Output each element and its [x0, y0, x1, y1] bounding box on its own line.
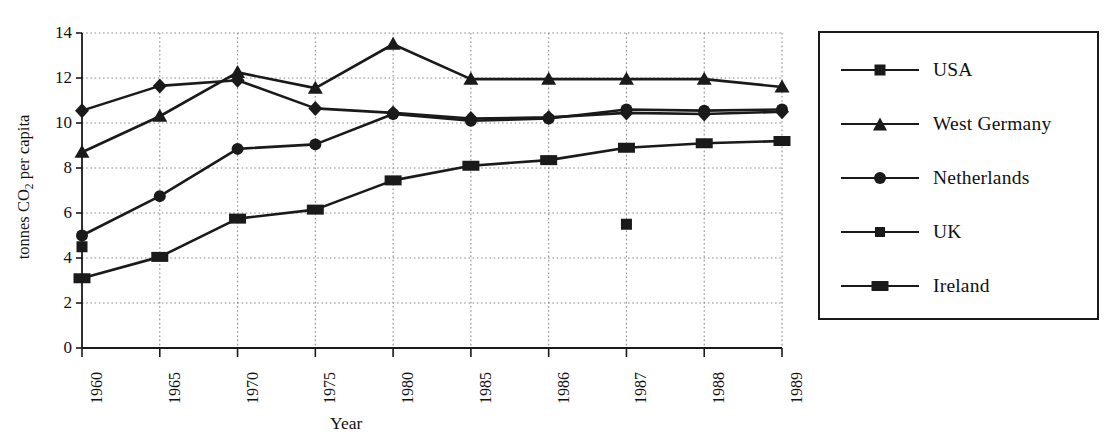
legend-label: Ireland — [933, 275, 990, 297]
x-tick-label: 1975 — [321, 372, 339, 404]
marker-square — [621, 219, 632, 230]
x-tick-label: 1985 — [477, 372, 495, 404]
legend-marker-sample — [841, 273, 919, 299]
series-ireland — [74, 136, 791, 283]
marker-circle — [76, 230, 88, 242]
marker-circle — [154, 190, 166, 202]
x-tick-label: 1965 — [166, 372, 184, 404]
legend-item-netherlands[interactable]: Netherlands — [820, 163, 1097, 193]
line-chart: tonnes CO2 per capita Year 02468101214 1… — [0, 0, 800, 445]
series-line — [82, 80, 782, 118]
marker-diamond — [386, 105, 400, 120]
y-tick-label: 0 — [46, 338, 72, 358]
legend-marker-wide-rect-icon — [872, 281, 889, 291]
legend-marker-circle-icon — [874, 172, 886, 184]
chart-page: tonnes CO2 per capita Year 02468101214 1… — [0, 0, 1117, 445]
x-tick-label: 1988 — [710, 372, 728, 404]
y-axis-title-pre: tonnes CO — [14, 189, 33, 259]
marker-wide-rect — [229, 214, 246, 224]
marker-diamond — [153, 78, 167, 93]
marker-square — [77, 241, 88, 252]
legend-marker-sample — [841, 219, 919, 245]
y-tick-label: 4 — [46, 248, 72, 268]
chart-legend: USAWest GermanyNetherlandsUKIreland — [818, 31, 1099, 320]
y-axis-title: tonnes CO2 per capita — [14, 72, 35, 302]
x-tick-label: 1970 — [244, 372, 262, 404]
y-tick-label: 14 — [46, 23, 72, 43]
marker-wide-rect — [540, 155, 557, 165]
legend-item-usa[interactable]: USA — [820, 55, 1097, 85]
legend-label: UK — [933, 221, 962, 243]
marker-wide-rect — [151, 252, 168, 262]
x-tick-label: 1987 — [632, 372, 650, 404]
y-tick-label: 12 — [46, 68, 72, 88]
marker-wide-rect — [696, 138, 713, 148]
x-axis-title: Year — [330, 413, 362, 434]
y-axis-title-post: per capita — [14, 115, 33, 184]
marker-wide-rect — [618, 143, 635, 153]
marker-wide-rect — [462, 161, 479, 171]
marker-diamond — [75, 103, 89, 118]
x-tick-label: 1986 — [555, 372, 573, 404]
marker-circle — [232, 143, 244, 155]
legend-label: USA — [933, 59, 973, 81]
legend-item-uk[interactable]: UK — [820, 217, 1097, 247]
legend-marker-square-icon — [875, 65, 886, 76]
marker-diamond — [308, 101, 322, 116]
x-tick-label: 1960 — [88, 372, 106, 404]
x-tick-label: 1989 — [788, 372, 806, 404]
marker-wide-rect — [307, 205, 324, 215]
legend-marker-diamond-icon — [875, 227, 885, 237]
legend-marker-sample — [841, 57, 919, 83]
legend-marker-sample — [841, 111, 919, 137]
y-tick-label: 6 — [46, 203, 72, 223]
marker-wide-rect — [74, 273, 91, 283]
legend-marker-triangle-icon — [873, 118, 887, 131]
legend-item-ireland[interactable]: Ireland — [820, 271, 1097, 301]
marker-triangle — [386, 37, 401, 50]
legend-marker-sample — [841, 165, 919, 191]
series-west-germany — [75, 37, 790, 158]
marker-circle — [309, 138, 321, 150]
marker-wide-rect — [385, 175, 402, 185]
marker-wide-rect — [774, 136, 791, 146]
y-axis-title-sub: 2 — [23, 183, 35, 189]
y-tick-label: 2 — [46, 293, 72, 313]
x-tick-label: 1980 — [399, 372, 417, 404]
y-tick-label: 10 — [46, 113, 72, 133]
legend-label: Netherlands — [933, 167, 1029, 189]
legend-label: West Germany — [933, 113, 1051, 135]
y-tick-label: 8 — [46, 158, 72, 178]
legend-item-west-germany[interactable]: West Germany — [820, 109, 1097, 139]
marker-triangle — [152, 109, 167, 122]
series-line — [82, 44, 782, 152]
